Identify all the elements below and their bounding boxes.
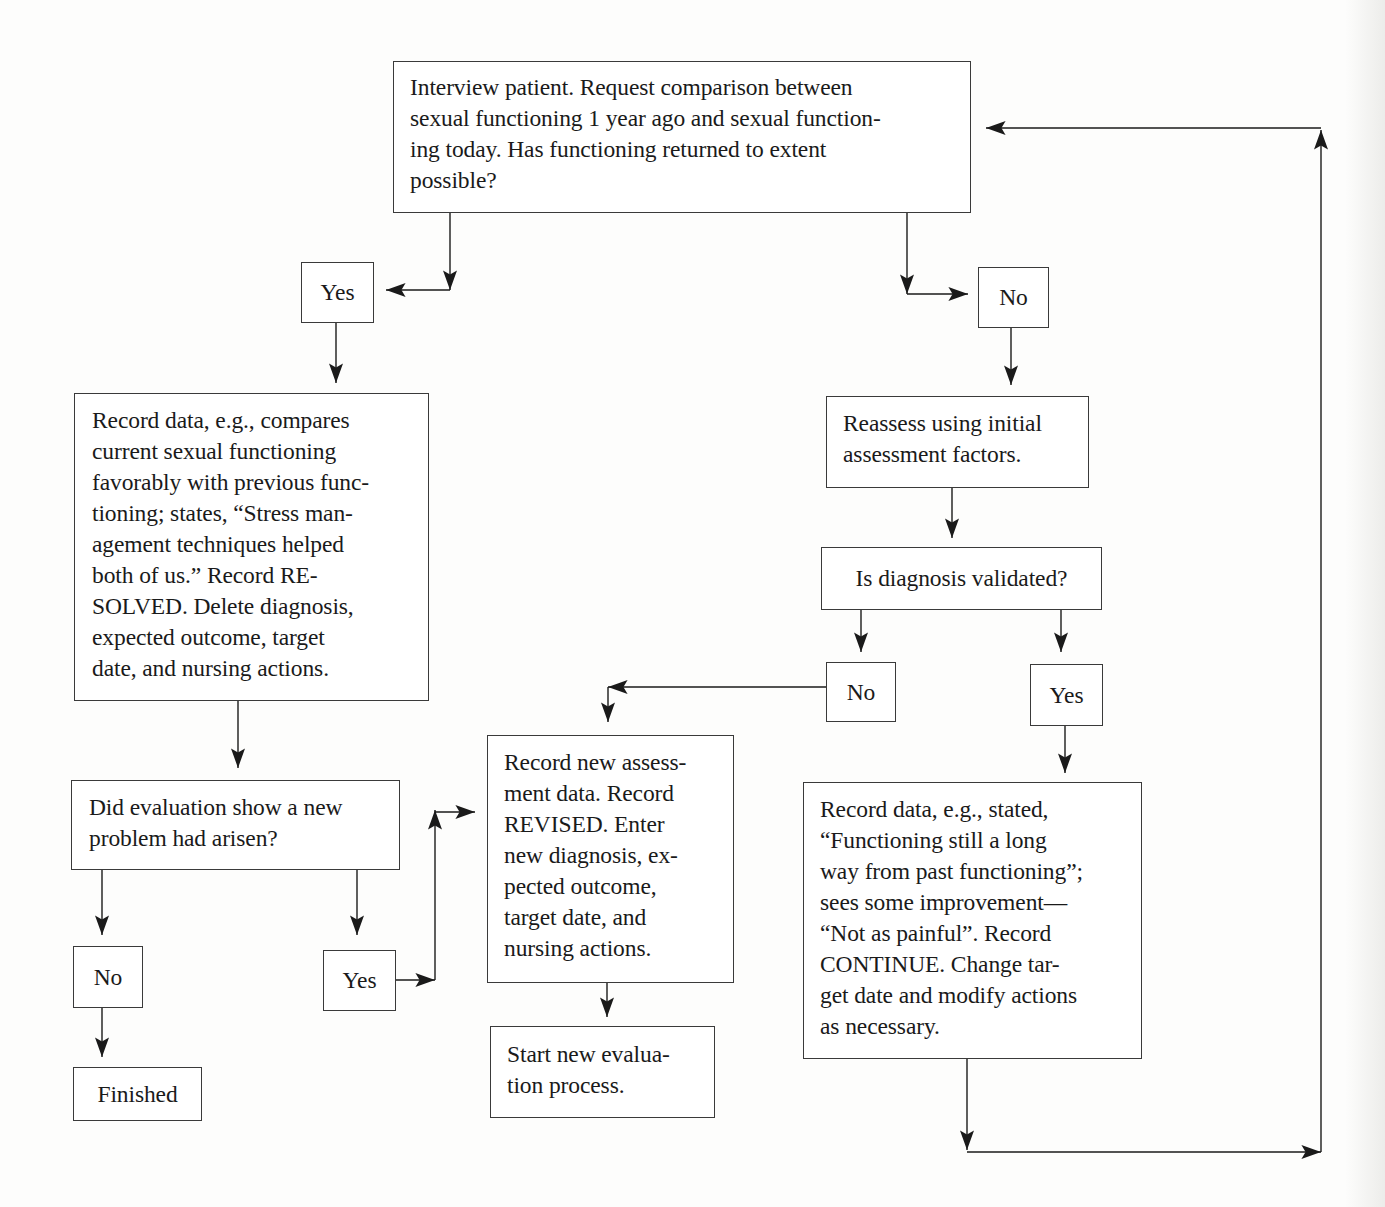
node-reassess: Reassess using initial assessment factor… bbox=[826, 396, 1089, 488]
node-interview-patient: Interview patient. Request comparison be… bbox=[393, 61, 971, 213]
node-yes-functioning-returned: Yes bbox=[301, 262, 374, 323]
node-new-problem-question: Did evaluation show a new problem had ar… bbox=[71, 780, 400, 870]
node-diagnosis-validated: Is diagnosis validated? bbox=[821, 547, 1102, 610]
node-finished: Finished bbox=[73, 1067, 202, 1121]
node-no-functioning-returned: No bbox=[978, 267, 1049, 328]
flowchart-canvas: Interview patient. Request comparison be… bbox=[0, 0, 1385, 1207]
node-record-continue: Record data, e.g., stated, “Functioning … bbox=[803, 782, 1142, 1059]
node-record-revised: Record new assess- ment data. Record REV… bbox=[487, 735, 734, 983]
node-no-new-problem: No bbox=[73, 946, 143, 1008]
node-no-diagnosis-validated: No bbox=[826, 662, 896, 722]
node-record-resolved: Record data, e.g., compares current sexu… bbox=[74, 393, 429, 701]
node-yes-diagnosis-validated: Yes bbox=[1030, 664, 1103, 726]
node-start-new-evaluation: Start new evalua- tion process. bbox=[490, 1026, 715, 1118]
node-yes-new-problem: Yes bbox=[323, 950, 396, 1011]
